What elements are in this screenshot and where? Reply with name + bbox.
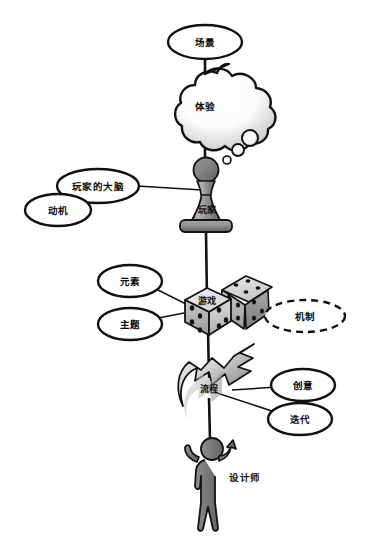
thought-bubble-large: [242, 130, 258, 146]
pawn-head: [194, 158, 219, 183]
node-iteration-label: 迭代: [290, 414, 311, 425]
node-motivation[interactable]: 动机: [25, 194, 91, 226]
node-process-label: 流程: [200, 383, 219, 394]
thought-bubble-small: [223, 156, 231, 164]
pawn-base: [180, 220, 232, 232]
node-process[interactable]: 流程: [178, 344, 254, 419]
thought-cloud-shape: [175, 64, 275, 151]
node-creativity-label: 创意: [292, 380, 314, 391]
designer-body: [195, 460, 218, 531]
node-game[interactable]: 游戏: [185, 276, 272, 335]
node-player-label: 玩家: [198, 204, 217, 215]
spiral-arrow-shading: [184, 372, 222, 419]
node-player-brain-label: 玩家的大脑: [72, 181, 125, 192]
node-designer-label: 设计师: [229, 472, 261, 483]
node-game-label: 游戏: [198, 295, 217, 306]
node-player[interactable]: 玩家: [180, 158, 232, 233]
node-designer[interactable]: 设计师: [185, 438, 261, 531]
pawn-neck: [197, 181, 215, 195]
node-mechanics-label: 机制: [295, 311, 316, 322]
edge-brain-player: [137, 186, 202, 190]
node-scene[interactable]: 场景: [168, 25, 242, 59]
die-front: 游戏: [185, 288, 231, 335]
node-elements-label: 元素: [120, 276, 141, 287]
edge-process-designer: [209, 398, 210, 440]
node-experience[interactable]: 体验: [175, 64, 275, 151]
node-theme-label: 主题: [120, 319, 141, 330]
node-mechanics[interactable]: 机制: [265, 300, 345, 332]
designer-arm-left: [185, 445, 199, 462]
node-theme[interactable]: 主题: [98, 308, 162, 340]
node-experience-label: 体验: [195, 101, 216, 112]
diagram-canvas: 场景 体验 玩家 玩家的大脑 动机 元素 主题: [0, 0, 366, 547]
node-scene-label: 场景: [195, 37, 216, 48]
node-motivation-label: 动机: [48, 205, 69, 216]
node-creativity[interactable]: 创意: [271, 369, 335, 401]
node-elements[interactable]: 元素: [98, 265, 162, 297]
thought-bubble-medium: [232, 144, 244, 156]
game-design-diagram: 场景 体验 玩家 玩家的大脑 动机 元素 主题: [0, 0, 366, 547]
node-iteration[interactable]: 迭代: [268, 403, 332, 435]
